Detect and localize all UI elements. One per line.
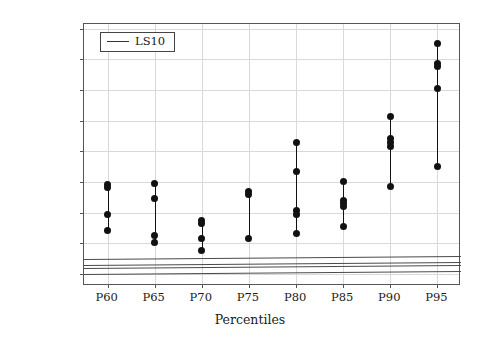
data-point [387,113,394,120]
y-tick-mark [80,243,84,244]
data-point [434,63,441,70]
data-point [245,235,252,242]
data-point [387,143,394,150]
y-tick-mark [80,121,84,122]
legend-label-ls10: LS10 [135,36,165,48]
gridline-vertical [249,24,250,284]
x-tick-mark [155,284,156,288]
legend-line-icon [107,41,129,42]
plot-area: LS10 [83,23,460,285]
data-point [104,211,111,218]
data-point [151,180,158,187]
data-point [104,227,111,234]
data-stem [249,192,250,239]
x-tick-mark [249,284,250,288]
y-tick-mark [80,59,84,60]
data-point [387,183,394,190]
x-axis-title: Percentiles [0,312,500,327]
data-point [293,139,300,146]
data-stem [296,143,297,234]
x-tick-mark [343,284,344,288]
data-point [198,235,205,242]
data-point [293,168,300,175]
y-tick-mark [80,151,84,152]
gridline-vertical [108,24,109,284]
x-tick-mark [108,284,109,288]
x-tick-mark [202,284,203,288]
data-point [293,211,300,218]
data-point [340,203,347,210]
x-tick-mark [296,284,297,288]
data-point [198,247,205,254]
gridline-vertical [343,24,344,284]
data-point [340,178,347,185]
data-point [245,191,252,198]
legend: LS10 [100,32,175,52]
x-tick-mark [437,284,438,288]
gridline-horizontal [84,59,459,60]
data-point [151,232,158,239]
gridline-horizontal [84,90,459,91]
data-point [434,85,441,92]
data-point [151,239,158,246]
gridline-horizontal [84,121,459,122]
data-stem [390,117,391,187]
gridline-horizontal [84,151,459,152]
y-tick-mark [80,213,84,214]
data-point [340,223,347,230]
gridline-horizontal [84,29,459,30]
ref-line-1 [84,256,461,260]
y-tick-mark [80,274,84,275]
data-stem [108,184,109,231]
data-point [434,163,441,170]
gridline-horizontal [84,243,459,244]
y-tick-mark [80,29,84,30]
makespan-percentiles-chart: Makespan Percentiles LS10 30032034036038… [0,0,500,354]
y-tick-mark [80,182,84,183]
data-point [198,220,205,227]
data-point [151,195,158,202]
data-point [293,230,300,237]
gridline-horizontal [84,182,459,183]
x-tick-mark [390,284,391,288]
gridline-horizontal [84,213,459,214]
y-tick-mark [80,90,84,91]
data-point [434,40,441,47]
data-point [104,184,111,191]
x-tick-label: P95 [406,290,466,304]
